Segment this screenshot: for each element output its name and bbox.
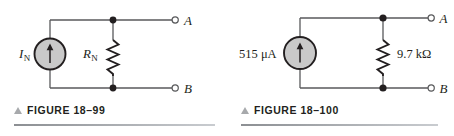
resistor-label: RN [82, 46, 98, 63]
junction-node-top [379, 14, 386, 21]
figure-caption-18-99: FIGURE 18–99 [14, 104, 105, 116]
caption-divider [241, 124, 438, 126]
resistor-zigzag-symbol [378, 40, 389, 76]
terminal-b-post [172, 85, 178, 91]
current-source-value-label: 515 μA [239, 47, 277, 61]
caption-divider [14, 124, 215, 126]
current-source-label: IN [18, 46, 31, 63]
figure-caption-text: FIGURE 18–99 [27, 104, 105, 116]
junction-node-top [110, 17, 117, 24]
resistor-label-sub: N [91, 53, 98, 63]
resistor-zigzag-symbol [108, 40, 119, 76]
terminal-a-post [428, 15, 434, 21]
terminal-b-label: B [184, 81, 192, 96]
resistor-label-main: R [82, 46, 91, 61]
terminal-b-label: B [440, 81, 448, 96]
resistor-value-label: 9.7 kΩ [397, 47, 431, 61]
terminal-b-post [428, 85, 434, 91]
figure-18-99: A B IN RN FIGURE 18–99 [0, 0, 227, 136]
figure-caption-18-100: FIGURE 18–100 [241, 104, 339, 116]
junction-node-bottom [110, 85, 117, 92]
terminal-a-label: A [183, 13, 192, 28]
circuit-diagram-18-99: A B IN RN [0, 0, 227, 104]
figure-18-100: A B 515 μA 9.7 kΩ FIGURE 18–100 [227, 0, 454, 136]
triangle-up-icon [14, 107, 22, 114]
current-source-label-sub: N [24, 53, 31, 63]
junction-node-bottom [379, 84, 386, 91]
circuit-diagram-18-100: A B 515 μA 9.7 kΩ [227, 0, 454, 104]
figure-caption-text: FIGURE 18–100 [254, 104, 339, 116]
terminal-a-label: A [439, 11, 448, 26]
triangle-up-icon [241, 107, 249, 114]
terminal-a-post [172, 17, 178, 23]
